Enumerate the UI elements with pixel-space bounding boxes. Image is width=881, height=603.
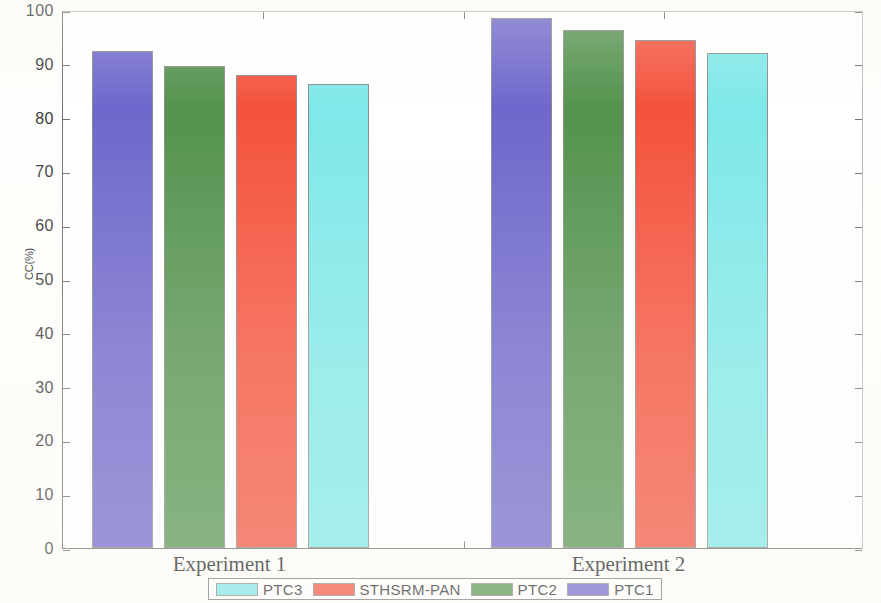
x-axis-tick-mark xyxy=(664,12,665,19)
y-axis-tick-label: 30 xyxy=(35,379,54,397)
y-axis-label: CC(%) xyxy=(23,219,35,309)
y-axis-tick-label: 40 xyxy=(35,325,54,343)
bar-sthsrm-pan-experiment-1 xyxy=(236,75,297,548)
y-axis-tick-mark xyxy=(63,227,70,228)
y-axis-tick-mark xyxy=(63,550,70,551)
legend-swatch-icon xyxy=(567,583,609,596)
x-axis-tick-mark xyxy=(263,12,264,19)
y-axis-tick-mark-right xyxy=(855,550,862,551)
bar-sthsrm-pan-experiment-2 xyxy=(635,40,696,548)
bar-ptc2-experiment-1 xyxy=(164,66,225,548)
y-axis-tick-mark xyxy=(63,388,70,389)
y-axis-tick-mark xyxy=(63,119,70,120)
y-axis-tick-mark-right xyxy=(855,442,862,443)
y-axis-tick-label: 90 xyxy=(35,56,54,74)
y-axis-tick-mark xyxy=(63,173,70,174)
y-axis-tick-mark-right xyxy=(855,388,862,389)
legend-item-ptc3[interactable]: PTC3 xyxy=(216,581,303,598)
legend-item-label: PTC3 xyxy=(263,581,303,598)
y-axis-tick-mark-right xyxy=(855,12,862,13)
y-axis-tick-mark-right xyxy=(855,173,862,174)
y-axis-tick-mark xyxy=(63,442,70,443)
y-axis-tick-label: 20 xyxy=(35,432,54,450)
y-axis-tick-label: 60 xyxy=(35,217,54,235)
y-axis-tick-mark-right xyxy=(855,334,862,335)
y-axis-tick-mark-right xyxy=(855,65,862,66)
y-axis-tick-mark-right xyxy=(855,119,862,120)
legend-item-sthsrm-pan[interactable]: STHSRM-PAN xyxy=(313,581,461,598)
legend-swatch-icon xyxy=(313,583,355,596)
y-axis-tick-label: 10 xyxy=(35,486,54,504)
legend-item-ptc1[interactable]: PTC1 xyxy=(567,581,654,598)
y-axis-tick-mark xyxy=(63,65,70,66)
y-axis-tick-mark-right xyxy=(855,281,862,282)
bar-ptc3-experiment-2 xyxy=(707,53,768,548)
legend-swatch-icon xyxy=(471,583,513,596)
x-axis-tick-mark xyxy=(464,12,465,19)
y-axis-tick-mark xyxy=(63,12,70,13)
legend-item-label: PTC2 xyxy=(518,581,558,598)
legend-item-label: PTC1 xyxy=(614,581,654,598)
x-axis-category-label-2: Experiment 2 xyxy=(430,552,827,577)
chart-legend: PTC3STHSRM-PANPTC2PTC1 xyxy=(208,578,662,600)
y-axis-tick-label: 50 xyxy=(35,271,54,289)
bar-ptc2-experiment-2 xyxy=(563,30,624,548)
bar-ptc3-experiment-1 xyxy=(308,84,369,548)
x-axis-tick-mark xyxy=(464,541,465,548)
legend-swatch-icon xyxy=(216,583,258,596)
y-axis-tick-mark xyxy=(63,496,70,497)
bar-ptc1-experiment-1 xyxy=(92,51,153,548)
x-axis-category-label-1: Experiment 1 xyxy=(31,552,428,577)
y-axis-tick-label: 100 xyxy=(26,2,54,20)
y-axis-tick-mark-right xyxy=(855,227,862,228)
legend-item-ptc2[interactable]: PTC2 xyxy=(471,581,558,598)
bar-chart-figure: CC(%) 0102030405060708090100 Experiment … xyxy=(0,0,881,603)
y-axis-tick-mark-right xyxy=(855,496,862,497)
plot-area: 0102030405060708090100 xyxy=(62,11,863,549)
bar-ptc1-experiment-2 xyxy=(491,18,552,548)
y-axis-tick-mark xyxy=(63,281,70,282)
legend-item-label: STHSRM-PAN xyxy=(360,581,461,598)
y-axis-tick-label: 80 xyxy=(35,110,54,128)
y-axis-tick-mark xyxy=(63,334,70,335)
y-axis-tick-label: 70 xyxy=(35,163,54,181)
